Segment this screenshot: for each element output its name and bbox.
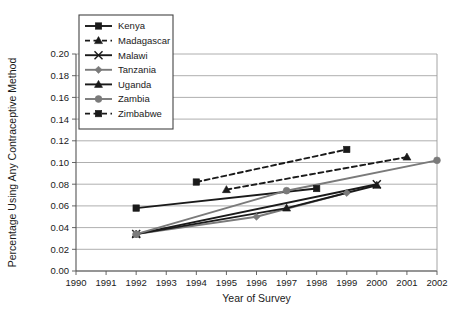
xtick-label-1996: 1996 bbox=[246, 277, 267, 288]
chart-canvas: 0.000.020.040.060.080.100.120.140.160.18… bbox=[0, 0, 455, 309]
xtick-label-2002: 2002 bbox=[426, 277, 447, 288]
contraceptive-use-chart: 0.000.020.040.060.080.100.120.140.160.18… bbox=[0, 0, 455, 309]
ytick-label-0.06: 0.06 bbox=[51, 200, 70, 211]
datapoint-zambia-2002 bbox=[434, 157, 441, 164]
legend-label-kenya: Kenya bbox=[118, 20, 146, 31]
xtick-label-1992: 1992 bbox=[126, 277, 147, 288]
legend-label-madagascar: Madagascar bbox=[118, 35, 170, 46]
legend-marker-zimbabwe bbox=[95, 110, 101, 116]
ytick-label-0.08: 0.08 bbox=[51, 179, 70, 190]
ytick-label-0.12: 0.12 bbox=[51, 135, 70, 146]
xtick-label-1991: 1991 bbox=[96, 277, 117, 288]
xtick-label-1995: 1995 bbox=[216, 277, 237, 288]
xtick-label-2001: 2001 bbox=[396, 277, 417, 288]
ytick-label-0.16: 0.16 bbox=[51, 92, 70, 103]
ytick-label-0.02: 0.02 bbox=[51, 244, 70, 255]
xtick-label-1993: 1993 bbox=[156, 277, 177, 288]
xtick-label-1999: 1999 bbox=[336, 277, 357, 288]
legend-label-uganda: Uganda bbox=[118, 79, 152, 90]
legend-marker-kenya bbox=[95, 23, 101, 29]
chart-background bbox=[0, 0, 455, 309]
legend-label-tanzania: Tanzania bbox=[118, 64, 157, 75]
datapoint-zambia-1997 bbox=[283, 187, 290, 194]
xtick-label-1994: 1994 bbox=[186, 277, 207, 288]
datapoint-zambia-1992 bbox=[133, 231, 140, 238]
ytick-label-0.14: 0.14 bbox=[51, 114, 70, 125]
ytick-label-0.20: 0.20 bbox=[51, 48, 70, 59]
legend-label-zimbabwe: Zimbabwe bbox=[118, 108, 162, 119]
legend-label-zambia: Zambia bbox=[118, 93, 150, 104]
ytick-label-0.18: 0.18 bbox=[51, 70, 70, 81]
datapoint-kenya-1992 bbox=[133, 205, 139, 211]
x-axis-title: Year of Survey bbox=[222, 292, 291, 304]
ytick-label-0.00: 0.00 bbox=[51, 265, 70, 276]
xtick-label-2000: 2000 bbox=[366, 277, 387, 288]
ytick-label-0.10: 0.10 bbox=[51, 157, 70, 168]
legend-label-malawi: Malawi bbox=[118, 50, 148, 61]
y-axis-title: Percentage Using Any Contraceptive Metho… bbox=[6, 58, 18, 268]
legend-marker-zambia bbox=[95, 96, 102, 103]
ytick-label-0.04: 0.04 bbox=[51, 222, 70, 233]
xtick-label-1997: 1997 bbox=[276, 277, 297, 288]
datapoint-zimbabwe-1994 bbox=[193, 179, 199, 185]
datapoint-zimbabwe-1999 bbox=[344, 146, 350, 152]
xtick-label-1998: 1998 bbox=[306, 277, 327, 288]
xtick-label-1990: 1990 bbox=[65, 277, 86, 288]
datapoint-kenya-1998 bbox=[313, 185, 319, 191]
